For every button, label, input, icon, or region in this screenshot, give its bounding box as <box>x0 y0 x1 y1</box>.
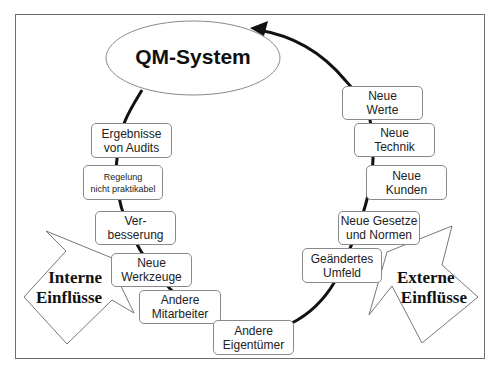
qm-system-label: QM-System <box>106 45 280 69</box>
external-item-new-customers: NeueKunden <box>366 165 447 200</box>
item-line2: Umfeld <box>311 266 374 280</box>
internal-item-new-tools: NeueWerkzeuge <box>111 253 192 287</box>
internal-title-line2: Einflüsse <box>36 288 102 308</box>
item-line1: Neue <box>121 256 181 270</box>
internal-item-improvement: Ver-besserung <box>95 211 176 245</box>
external-item-new-technology: NeueTechnik <box>354 123 435 157</box>
item-line2: besserung <box>107 228 163 242</box>
item-line1: Regelung <box>90 171 155 183</box>
item-line2: Werte <box>367 103 399 117</box>
internal-influences-label: Interne Einflüsse <box>36 268 102 308</box>
item-line2: Eigentümer <box>223 338 284 352</box>
item-line2: nicht praktikabel <box>90 183 155 195</box>
item-line2: Mitarbeiter <box>152 307 209 321</box>
item-line1: Geändertes <box>311 252 374 266</box>
item-line1: Neue <box>386 169 427 183</box>
item-line1: Andere <box>152 293 209 307</box>
item-line1: Ergebnisse <box>101 127 161 141</box>
internal-title-line1: Interne <box>36 268 102 288</box>
item-line2: Kunden <box>386 183 427 197</box>
external-item-changed-environment: GeändertesUmfeld <box>302 248 382 283</box>
item-line1: Ver- <box>107 214 163 228</box>
item-line2: von Audits <box>101 141 161 155</box>
item-line2: Technik <box>374 140 415 154</box>
internal-item-other-owners: AndereEigentümer <box>213 320 294 355</box>
external-item-new-values: NeueWerte <box>342 86 423 120</box>
internal-item-rule-impractical: Regelungnicht praktikabel <box>83 165 163 200</box>
internal-item-audit-results: Ergebnissevon Audits <box>91 123 172 158</box>
item-line1: Andere <box>223 324 284 338</box>
item-line1: Neue Gesetze <box>341 214 418 228</box>
external-influences-label: Externe Einflüsse <box>395 268 467 308</box>
external-item-new-laws: Neue Gesetzeund Normen <box>338 211 420 245</box>
item-line1: Neue <box>374 126 415 140</box>
item-line2: und Normen <box>341 228 418 242</box>
external-title-line2: Einflüsse <box>395 288 467 308</box>
item-line2: Werkzeuge <box>121 270 181 284</box>
item-line1: Neue <box>367 89 399 103</box>
external-title-line1: Externe <box>395 268 467 288</box>
internal-item-other-employees: AndereMitarbeiter <box>139 290 221 324</box>
